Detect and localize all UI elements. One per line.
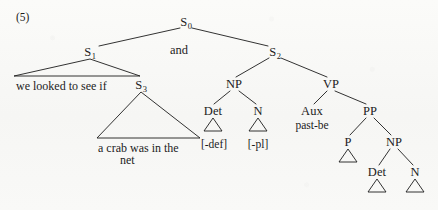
- s3-triangle-text: a crab was in thenet: [98, 142, 179, 166]
- tree-node-det2: Det: [368, 166, 386, 179]
- tree-edge-np1-det1: [214, 91, 230, 104]
- tree-node-n2: N: [410, 166, 419, 179]
- tree-node-det1: Det: [204, 105, 222, 118]
- s3-triangle-text-line-1: a crab was in the: [98, 141, 179, 155]
- tree-node-n1: N: [253, 105, 262, 118]
- tree-node-s2: S2: [269, 46, 280, 59]
- tree-edge-s0-s1: [99, 28, 180, 46]
- tree-node-s3: S3: [135, 79, 146, 92]
- tree-edge-vp-pp: [335, 91, 366, 104]
- tree-node-np2: NP: [386, 136, 402, 149]
- tree-node-np1: NP: [226, 78, 242, 91]
- s3-triangle: [97, 92, 200, 138]
- tree-node-vp: VP: [323, 78, 339, 91]
- tree-terminal-det1-terminal: [-def]: [201, 139, 227, 151]
- tree-edge-np2-det2: [379, 149, 390, 165]
- tree-edge-np2-n2: [398, 149, 413, 165]
- det1-triangle: [204, 118, 222, 131]
- tree-node-aux: Aux: [301, 105, 323, 118]
- det2-triangle: [368, 179, 386, 192]
- tree-node-p: P: [344, 136, 351, 149]
- tree-edge-vp-aux: [314, 91, 327, 104]
- syntax-tree-figure: (5) S0S1andS2S3NPVPDetNAuxPPPNPDetN [-de…: [0, 0, 438, 210]
- tree-edge-s2-np1: [236, 58, 269, 77]
- tree-node-s0: S0: [180, 16, 191, 29]
- tree-node-pp: PP: [363, 105, 377, 118]
- tree-node-conj: and: [170, 44, 188, 57]
- p-triangle: [339, 149, 357, 162]
- s1-triangle-text-line-1: we looked to see if: [16, 79, 107, 93]
- tree-edge-np1-n1: [239, 91, 256, 104]
- tree-terminal-n1-terminal: [-pl]: [248, 139, 268, 151]
- n1-triangle: [249, 118, 267, 131]
- s3-triangle-text-line-2: net: [98, 154, 179, 166]
- tree-edge-pp-p: [350, 118, 366, 135]
- tree-terminal-aux-terminal: past-be: [295, 120, 328, 132]
- s1-triangle-text: we looked to see if: [16, 80, 107, 92]
- tree-node-s1: S1: [84, 46, 95, 59]
- tree-edge-pp-np2: [374, 118, 391, 135]
- tree-edge-s0-s2: [192, 28, 268, 46]
- n2-triangle: [406, 179, 424, 192]
- s1-triangle: [14, 59, 140, 76]
- tree-edge-s2-vp: [281, 58, 327, 77]
